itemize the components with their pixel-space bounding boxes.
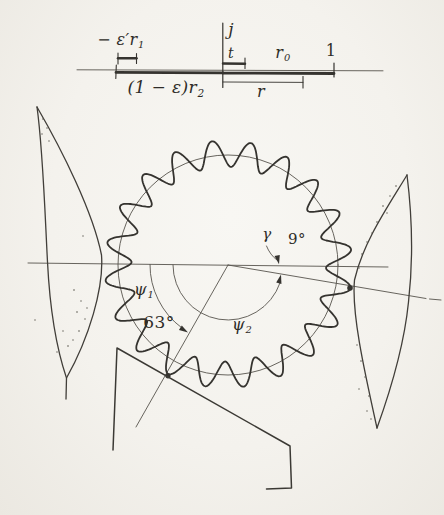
left-wheel-flank-edge [37,107,67,399]
contact-point-right-dot [347,285,353,291]
construction-lines [28,263,441,427]
psi2-arrow-icon [276,274,283,284]
right-grinding-wheel [354,175,412,428]
label-psi2: ψ2 [232,317,252,335]
label-minus-eps-r1: − ε′r1 [97,32,145,50]
label-one: 1 [326,43,337,59]
label-63-deg: 63° [143,314,174,331]
diagram-canvas [0,0,444,515]
label-j: j [228,21,234,38]
left-grinding-wheel [37,107,102,399]
gamma-line-dash [430,299,442,300]
gear-grinding-diagram: − ε′r1 j t r0 1 (1 − ε)r2 r ψ1 63° ψ2 γ … [0,0,444,515]
left-wheel-stipple-texture [34,118,87,352]
label-r: r [257,84,265,100]
gamma-arrow-icon [274,255,281,265]
label-1-minus-eps-prefix: (1 − ε) [127,77,188,97]
scale-axis-line [77,70,383,71]
label-psi1: ψ1 [134,282,154,300]
label-1-minus-eps-r2: (1 − ε)r2 [127,79,204,98]
label-gamma: γ [262,227,271,242]
psi2-arc [173,265,280,320]
right-wheel-face-edge [377,175,412,428]
scale-left-end-tick [116,65,117,79]
label-r0: r0 [275,45,290,63]
right-wheel-flank-edge [354,175,407,428]
horizontal-center-line [28,263,388,267]
label-minus-eps-prefix: − ε′ [97,30,129,49]
label-9-deg: 9° [288,232,306,247]
label-t: t [228,46,234,60]
